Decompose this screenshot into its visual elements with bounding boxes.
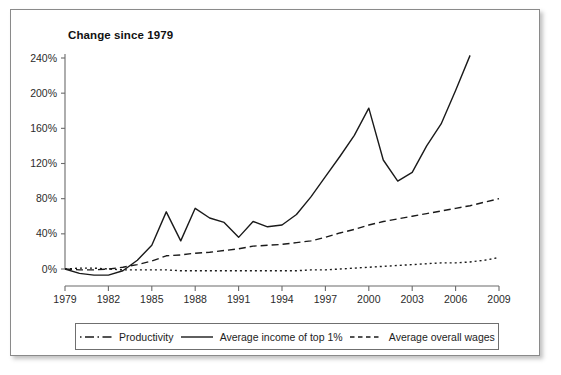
- svg-text:200%: 200%: [30, 87, 57, 99]
- series-line: [65, 199, 499, 270]
- figure-frame: 0%40%80%120%160%200%240%1979198219851988…: [10, 9, 540, 356]
- legend-item-top1[interactable]: Average income of top 1%: [178, 331, 345, 343]
- chart-axes: [61, 54, 499, 291]
- chart-series-lines: [65, 55, 499, 275]
- legend-swatch-dashed: [349, 332, 383, 342]
- svg-text:240%: 240%: [30, 52, 57, 64]
- legend-label-top1: Average income of top 1%: [220, 331, 343, 343]
- svg-text:1988: 1988: [184, 293, 208, 305]
- chart-title: Change since 1979: [68, 29, 173, 41]
- series-line: [65, 258, 499, 271]
- svg-text:2003: 2003: [401, 293, 425, 305]
- series-line: [65, 55, 470, 275]
- svg-text:120%: 120%: [30, 157, 57, 169]
- svg-text:1979: 1979: [53, 293, 77, 305]
- svg-text:1991: 1991: [227, 293, 251, 305]
- svg-text:2006: 2006: [444, 293, 468, 305]
- legend-label-productivity: Productivity: [119, 331, 173, 343]
- legend-item-productivity[interactable]: Productivity: [77, 331, 175, 343]
- svg-text:1982: 1982: [97, 293, 121, 305]
- chart-legend: Productivity Average income of top 1% Av…: [75, 323, 499, 350]
- svg-text:0%: 0%: [42, 263, 57, 275]
- svg-text:160%: 160%: [30, 122, 57, 134]
- svg-text:1997: 1997: [314, 293, 338, 305]
- legend-label-wages: Average overall wages: [389, 331, 495, 343]
- chart-plot-area: 0%40%80%120%160%200%240%1979198219851988…: [11, 10, 541, 357]
- svg-text:2009: 2009: [487, 293, 511, 305]
- legend-swatch-solid: [180, 332, 214, 342]
- svg-text:80%: 80%: [36, 192, 57, 204]
- legend-item-wages[interactable]: Average overall wages: [347, 331, 497, 343]
- svg-text:1985: 1985: [140, 293, 164, 305]
- svg-text:1994: 1994: [270, 293, 294, 305]
- chart-tick-labels: 0%40%80%120%160%200%240%1979198219851988…: [30, 52, 511, 305]
- svg-text:2000: 2000: [357, 293, 381, 305]
- legend-swatch-dashdot: [79, 332, 113, 342]
- svg-text:40%: 40%: [36, 227, 57, 239]
